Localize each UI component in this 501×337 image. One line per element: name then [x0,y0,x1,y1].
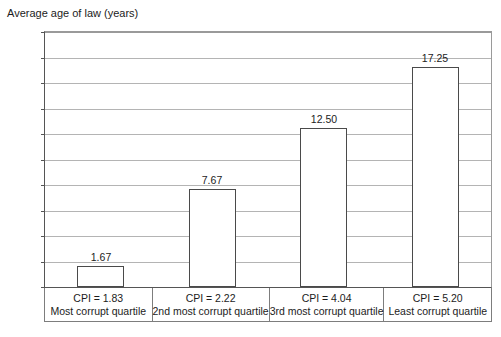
category-cell: CPI = 1.83 Most corrupt quartile [45,288,153,321]
chart-title: Average age of law (years) [7,7,138,20]
category-cell: CPI = 4.04 3rd most corrupt quartile [270,288,385,321]
bar-value-label: 17.25 [405,53,465,64]
category-name-label: Most corrupt quartile [50,305,146,318]
bar [300,128,347,287]
y-axis-tick-mark [41,236,45,237]
category-cpi-label: CPI = 5.20 [413,292,463,305]
bar [412,67,459,287]
plot-area: 20.018.016.014.012.010.08.06.04.02.00.01… [44,31,492,288]
category-name-label: Least corrupt quartile [388,305,487,318]
y-axis-tick-mark [41,58,45,59]
y-axis-tick-mark [41,211,45,212]
y-axis-tick-mark [41,160,45,161]
bar-value-label: 1.67 [71,252,131,263]
category-cpi-label: CPI = 4.04 [302,292,352,305]
bar [189,189,236,287]
category-axis-labels: CPI = 1.83 Most corrupt quartile CPI = 2… [44,288,492,322]
gridline [45,32,491,33]
bar-value-label: 12.50 [294,114,354,125]
category-cell: CPI = 5.20 Least corrupt quartile [384,288,491,321]
category-name-label: 2nd most corrupt quartile [153,305,269,318]
bar-chart: Average age of law (years) 20.018.016.01… [0,0,501,337]
bar [77,266,124,287]
bar-value-label: 7.67 [182,175,242,186]
category-cpi-label: CPI = 2.22 [186,292,236,305]
y-axis-tick-mark [41,185,45,186]
y-axis-tick-mark [41,262,45,263]
y-axis-tick-mark [41,32,45,33]
category-cpi-label: CPI = 1.83 [73,292,123,305]
category-name-label: 3rd most corrupt quartile [270,305,384,318]
y-axis-tick-mark [41,109,45,110]
y-axis-tick-mark [41,134,45,135]
y-axis-tick-mark [41,83,45,84]
category-cell: CPI = 2.22 2nd most corrupt quartile [153,288,270,321]
